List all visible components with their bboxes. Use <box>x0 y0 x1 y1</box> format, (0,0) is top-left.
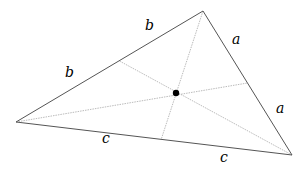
median-from-top <box>161 11 203 140</box>
triangle-diagram: b b a a c c <box>0 0 303 171</box>
edge-label-b-lower: b <box>65 65 74 79</box>
median-from-right <box>120 61 293 155</box>
edge-label-c-right: c <box>220 150 228 164</box>
edge-label-a-lower: a <box>276 101 284 115</box>
centroid-point <box>173 90 179 96</box>
median-from-left <box>16 83 248 122</box>
triangle-edges <box>16 11 292 155</box>
edge-label-a-upper: a <box>232 32 240 46</box>
edge-label-b-upper: b <box>145 18 154 32</box>
edge-label-c-left: c <box>102 131 110 145</box>
